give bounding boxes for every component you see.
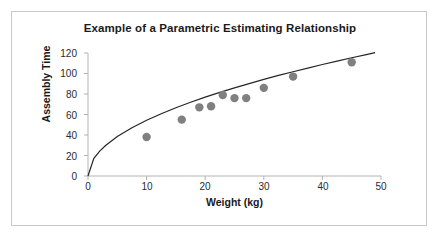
data-point (195, 103, 203, 111)
x-axis-ticks (88, 176, 381, 180)
data-point (178, 115, 186, 123)
plot-area (11, 11, 427, 226)
data-point (207, 102, 215, 110)
data-point (289, 72, 297, 80)
y-axis-ticks (84, 53, 88, 176)
data-point (242, 94, 250, 102)
data-point (260, 84, 268, 92)
chart-figure: Example of a Parametric Estimating Relat… (0, 0, 448, 242)
scatter-points (142, 58, 355, 141)
data-point (219, 91, 227, 99)
fitted-curve (88, 53, 375, 176)
data-point (230, 94, 238, 102)
data-point (142, 133, 150, 141)
data-point (348, 58, 356, 66)
axes-group (84, 53, 381, 180)
